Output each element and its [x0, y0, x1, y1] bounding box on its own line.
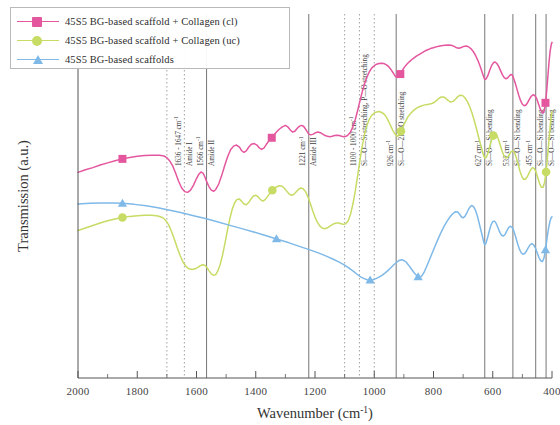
spectrum-line — [78, 95, 552, 275]
legend-item: 45S5 BG-based scaffold + Collagen (uc) — [17, 31, 283, 50]
data-point-marker — [489, 131, 498, 140]
y-axis-title: Transmission (a.u.) — [15, 140, 32, 252]
data-point-marker — [118, 213, 127, 222]
annotation-assignment: Amide II — [208, 139, 216, 166]
annotation-wavenumber: 926 cm-1 — [385, 140, 395, 166]
chart-legend: 45S5 BG-based scaffold + Collagen (cl) 4… — [10, 7, 290, 69]
x-axis-tick-label: 1000 — [363, 385, 386, 397]
data-point-marker — [542, 168, 551, 177]
legend-marker-triangle — [17, 53, 59, 67]
data-point-marker — [118, 155, 126, 163]
x-axis-tick-label: 800 — [425, 385, 443, 397]
legend-marker-square — [17, 15, 59, 29]
legend-item-label: 45S5 BG-based scaffold + Collagen (cl) — [59, 16, 238, 27]
legend-item-label: 45S5 BG-based scaffold + Collagen (uc) — [59, 35, 240, 46]
legend-item: 45S5 BG-based scaffolds — [17, 50, 283, 69]
annotation-wavenumber: 1100 - 1000 cm-1 — [348, 116, 358, 166]
legend-item-label: 45S5 BG-based scaffolds — [59, 54, 174, 65]
annotation-wavenumber: 1566 cm-1 — [195, 136, 205, 166]
x-axis-tick-label: 1400 — [244, 385, 267, 397]
legend-marker-circle — [17, 34, 59, 48]
data-point-marker — [268, 134, 276, 142]
annotation-wavenumber: 627 cm-1 — [474, 140, 484, 166]
legend-item: 45S5 BG-based scaffold + Collagen (cl) — [17, 12, 283, 31]
annotation-wavenumber: 1636 - 1647 cm-1 — [173, 116, 183, 166]
x-axis-tick-label: 600 — [484, 385, 502, 397]
data-point-marker — [541, 99, 549, 107]
spectrum-line — [78, 203, 552, 280]
x-axis-tick-label: 1200 — [303, 385, 326, 397]
annotation-assignment: Amide I — [186, 142, 194, 166]
annotation-wavenumber: 455 cm-1 — [525, 140, 535, 166]
x-axis-tick-label: 2000 — [66, 385, 89, 397]
annotation-wavenumber: 1221 cm-1 — [298, 136, 308, 166]
data-point-marker — [268, 186, 277, 195]
annotation-assignment: Amide III — [310, 137, 318, 166]
data-point-marker — [541, 245, 550, 253]
annotation-assignment: Si—O—Si bending — [537, 109, 545, 166]
x-axis-tick-label: 1600 — [185, 385, 208, 397]
x-axis-tick-label: 400 — [543, 385, 560, 397]
data-point-marker — [397, 127, 406, 136]
x-axis-title: Wavenumber (cm-1) — [257, 405, 373, 422]
x-axis-tick-label: 1800 — [126, 385, 149, 397]
data-point-marker — [396, 70, 404, 78]
